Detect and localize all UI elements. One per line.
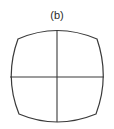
barrel-distortion-diagram bbox=[0, 0, 114, 129]
